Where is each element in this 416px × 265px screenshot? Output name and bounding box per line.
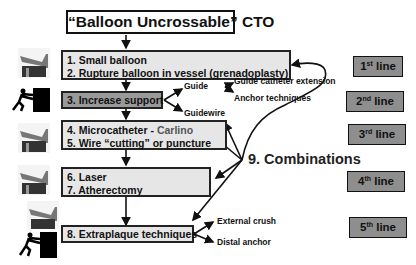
distal-anchor-label: Distal anchor xyxy=(217,237,271,247)
external-crush-label: External crush xyxy=(217,216,276,226)
guidewire-label: Guidewire xyxy=(184,108,225,118)
line-badge-1: 1st line xyxy=(353,56,403,77)
pushing-person-icon xyxy=(16,232,58,258)
pushing-person-icon xyxy=(9,88,51,112)
step-box-microcatheter: 4. Microcatheter - Carlino 5. Wire “cutt… xyxy=(61,120,227,150)
step-box-support: 3. Increase support xyxy=(61,91,163,109)
balloon-device-icon xyxy=(18,165,50,195)
step-box-extraplaque: 8. Extraplaque techniques xyxy=(61,225,194,243)
title-box: “Balloon Uncrossable” CTO xyxy=(66,10,235,34)
line-badge-3: 3rd line xyxy=(348,124,406,145)
carlino-text: Carlino xyxy=(157,124,193,136)
anchor-techniques-label: Anchor techniques xyxy=(234,93,311,103)
step-3-text: 3. Increase support xyxy=(67,94,161,107)
step-5-text: 5. Wire “cutting” or puncture xyxy=(67,137,225,150)
line-badge-4: 4th line xyxy=(347,171,405,192)
balloon-device-icon xyxy=(18,48,50,78)
guide-catheter-extension-label: Guide catheter extension xyxy=(234,76,336,86)
title-text: “Balloon Uncrossable” CTO xyxy=(68,13,274,30)
step-7-text: 7. Atherectomy xyxy=(67,184,209,197)
line-badge-5: 5th line xyxy=(349,217,407,238)
combinations-label: 9. Combinations xyxy=(248,151,361,167)
guide-label: Guide xyxy=(184,81,208,91)
balloon-device-icon xyxy=(27,201,59,229)
balloon-device-icon xyxy=(18,123,50,153)
step-4-text: 4. Microcatheter - xyxy=(67,124,157,136)
step-6-text: 6. Laser xyxy=(67,171,209,184)
step-1-text: 1. Small balloon xyxy=(67,54,289,67)
step-box-laser-atherectomy: 6. Laser 7. Atherectomy xyxy=(61,167,211,197)
line-badge-2: 2nd line xyxy=(346,91,404,112)
step-8-text: 8. Extraplaque techniques xyxy=(67,228,192,241)
